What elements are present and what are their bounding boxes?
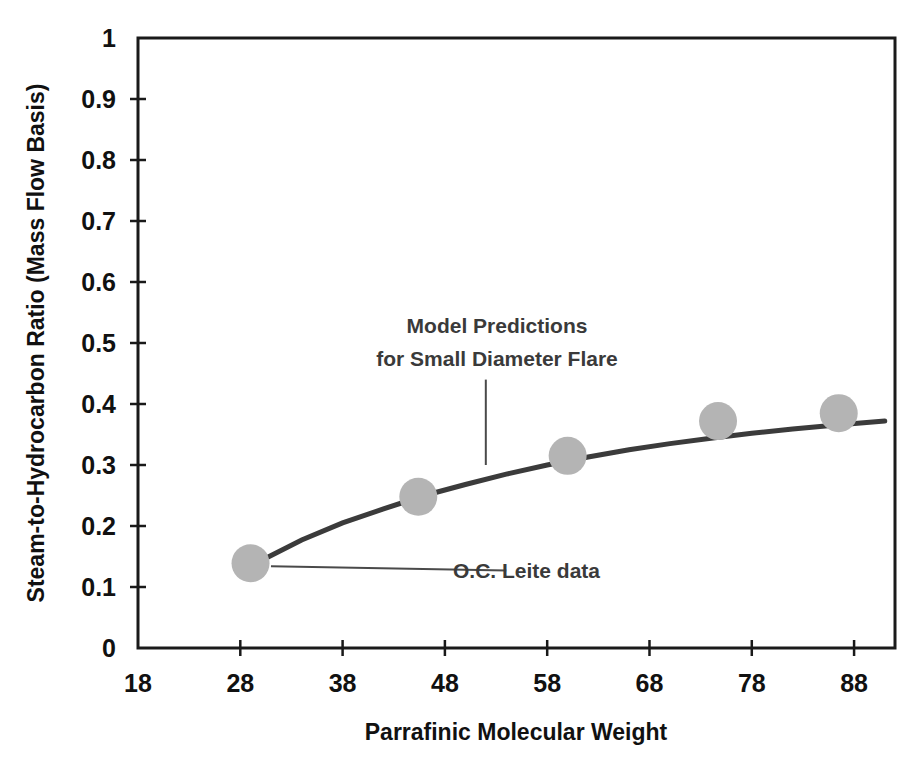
annotation-model-predictions-line1: Model Predictions (407, 314, 588, 337)
data-point (232, 544, 270, 582)
x-tick-label: 48 (431, 669, 459, 697)
data-point (699, 402, 737, 440)
y-tick-label: 0.5 (81, 329, 116, 357)
y-tick-label: 1 (102, 24, 116, 52)
y-tick-label: 0.8 (81, 146, 116, 174)
chart-figure: 00.10.20.30.40.50.60.70.80.91 1828384858… (0, 0, 916, 776)
x-tick-label: 38 (329, 669, 357, 697)
data-point (820, 394, 858, 432)
y-tick-label: 0.3 (81, 451, 116, 479)
x-tick-label: 88 (840, 669, 868, 697)
annotation-oc-leite-data: O.C. Leite data (453, 559, 600, 582)
chart-canvas: 00.10.20.30.40.50.60.70.80.91 1828384858… (0, 0, 916, 776)
y-axis-title: Steam-to-Hydrocarbon Ratio (Mass Flow Ba… (23, 84, 49, 603)
x-tick-label: 68 (636, 669, 664, 697)
x-tick-label: 18 (124, 669, 152, 697)
annotation-model-predictions-line2: for Small Diameter Flare (376, 347, 618, 370)
y-tick-label: 0.2 (81, 512, 116, 540)
x-tick-label: 28 (226, 669, 254, 697)
x-tick-label: 58 (533, 669, 561, 697)
y-tick-label: 0.6 (81, 268, 116, 296)
y-tick-label: 0.4 (81, 390, 116, 418)
y-tick-label: 0.9 (81, 85, 116, 113)
data-point (399, 478, 437, 516)
x-tick-label: 78 (738, 669, 766, 697)
data-point (549, 437, 587, 475)
y-tick-label: 0.7 (81, 207, 116, 235)
y-tick-label: 0 (102, 634, 116, 662)
y-tick-label: 0.1 (81, 573, 116, 601)
x-axis-title: Parrafinic Molecular Weight (365, 719, 668, 745)
